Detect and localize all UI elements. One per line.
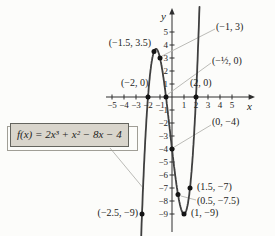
y-tick-label: 5 [164, 28, 169, 37]
point-label: (0.5, −7.5) [197, 195, 239, 207]
labels-layer: −5−4−3−2−11234554321−1−2−3−4−5−6−7−8−9(−… [0, 0, 275, 236]
x-tick-label: 3 [206, 101, 211, 110]
y-tick-label: −9 [158, 210, 168, 219]
y-tick-label: −1 [158, 106, 168, 115]
point-label: (−1.5, 3.5) [109, 37, 151, 49]
x-tick-label: −4 [119, 101, 129, 110]
x-tick-label: −2 [143, 101, 153, 110]
point-label: (1.5, −7) [197, 181, 232, 193]
equation-box: f(x) = 2x³ + x² − 8x − 4 [10, 123, 129, 147]
point-label: (−½, 0) [212, 55, 242, 67]
point-label: (−1, 3) [216, 21, 243, 33]
x-tick-label: −3 [131, 101, 141, 110]
y-tick-label: −4 [158, 145, 168, 154]
x-tick-label: 1 [182, 101, 187, 110]
point-label: (0, −4) [212, 116, 239, 128]
point-label: (1, −9) [191, 207, 218, 219]
x-tick-label: 2 [194, 101, 199, 110]
y-tick-label: 3 [164, 54, 169, 63]
y-tick-label: −8 [158, 197, 168, 206]
x-tick-label: 4 [218, 101, 223, 110]
y-tick-label: 1 [164, 80, 169, 89]
x-tick-label: 5 [230, 101, 235, 110]
x-axis-letter: x [247, 100, 252, 112]
figure-canvas: −5−4−3−2−11234554321−1−2−3−4−5−6−7−8−9(−… [0, 0, 275, 236]
point-label: (2, 0) [190, 77, 212, 89]
point-label: (−2, 0) [121, 77, 148, 89]
point-label: (−2.5, −9) [98, 207, 138, 219]
y-tick-label: 2 [164, 67, 169, 76]
y-tick-label: −6 [158, 171, 168, 180]
y-tick-label: 4 [164, 41, 169, 50]
x-tick-label: −5 [107, 101, 117, 110]
y-tick-label: −5 [158, 158, 168, 167]
y-tick-label: −7 [158, 184, 168, 193]
y-axis-letter: y [161, 10, 166, 22]
y-tick-label: −2 [158, 119, 168, 128]
y-tick-label: −3 [158, 132, 168, 141]
